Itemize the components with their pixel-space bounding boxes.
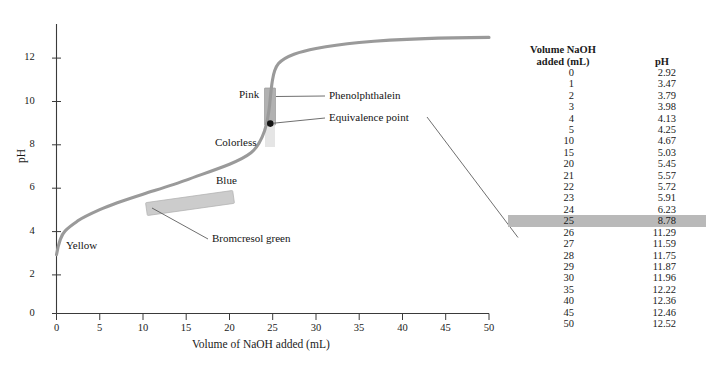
cell-volume: 26 xyxy=(508,227,618,238)
annotation-bromcresol-green: Bromcresol green xyxy=(212,232,291,244)
cell-volume: 28 xyxy=(508,250,618,261)
chart-canvas xyxy=(0,0,500,369)
x-tick-label-25: 25 xyxy=(263,322,282,333)
cell-volume: 40 xyxy=(508,295,618,306)
cell-ph: 11.29 xyxy=(618,227,706,238)
cell-ph: 6.23 xyxy=(618,204,706,215)
x-tick-label-20: 20 xyxy=(220,322,239,333)
x-tick-marks xyxy=(57,314,490,321)
cell-ph: 12.36 xyxy=(618,295,706,306)
cell-ph: 11.59 xyxy=(618,238,706,249)
cell-ph: 12.46 xyxy=(618,307,706,318)
cell-volume: 0 xyxy=(508,67,618,78)
cell-volume: 50 xyxy=(508,318,618,329)
table-row: 33.98 xyxy=(508,101,706,112)
table-row: 2711.59 xyxy=(508,238,706,249)
cell-ph: 5.03 xyxy=(618,147,706,158)
x-axis-title: Volume of NaOH added (mL) xyxy=(192,338,330,350)
x-tick-label-40: 40 xyxy=(393,322,412,333)
column-header-ph: pH xyxy=(618,44,706,67)
cell-ph: 12.52 xyxy=(618,318,706,329)
y-tick-label-4: 4 xyxy=(24,225,40,236)
table-head: Volume NaOH added (mL) pH xyxy=(508,44,706,67)
cell-ph: 3.98 xyxy=(618,101,706,112)
cell-ph: 3.47 xyxy=(618,78,706,89)
cell-volume: 20 xyxy=(508,158,618,169)
cell-ph: 11.87 xyxy=(618,261,706,272)
table-row: 54.25 xyxy=(508,124,706,135)
cell-ph: 2.92 xyxy=(618,67,706,78)
y-tick-label-6: 6 xyxy=(24,181,40,192)
table-row: 5012.52 xyxy=(508,318,706,329)
cell-ph: 4.67 xyxy=(618,135,706,146)
cell-ph: 4.25 xyxy=(618,124,706,135)
annotation-pink: Pink xyxy=(239,88,259,100)
table-row: 3011.96 xyxy=(508,272,706,283)
titration-chart: 0 2 4 6 8 10 12 0 5 10 15 20 25 30 35 40… xyxy=(0,0,500,369)
table-row: 235.91 xyxy=(508,192,706,203)
cell-volume: 23 xyxy=(508,192,618,203)
titration-curve-figure: 0 2 4 6 8 10 12 0 5 10 15 20 25 30 35 40… xyxy=(0,0,706,369)
table-body: 02.9213.4723.7933.9844.1354.25104.67155.… xyxy=(508,67,706,329)
column-header-volume-line2: added (mL) xyxy=(508,56,618,68)
y-tick-label-2: 2 xyxy=(24,268,40,279)
cell-volume: 10 xyxy=(508,135,618,146)
cell-ph: 11.96 xyxy=(618,272,706,283)
table-row: 4512.46 xyxy=(508,307,706,318)
cell-ph: 3.79 xyxy=(618,90,706,101)
y-tick-label-0: 0 xyxy=(24,307,40,318)
table-row: 246.23 xyxy=(508,204,706,215)
x-tick-label-50: 50 xyxy=(480,322,498,333)
cell-ph: 5.45 xyxy=(618,158,706,169)
cell-ph: 12.22 xyxy=(618,284,706,295)
table-row: 155.03 xyxy=(508,147,706,158)
table-row: 2811.75 xyxy=(508,250,706,261)
table-row: 225.72 xyxy=(508,181,706,192)
column-header-volume-line1: Volume NaOH xyxy=(508,44,618,56)
cell-volume: 45 xyxy=(508,307,618,318)
y-axis-title: pH xyxy=(15,149,27,163)
annotation-yellow: Yellow xyxy=(66,239,97,251)
annotation-colorless: Colorless xyxy=(215,136,257,148)
table-row: 3512.22 xyxy=(508,284,706,295)
table-row: 23.79 xyxy=(508,90,706,101)
cell-ph: 5.57 xyxy=(618,170,706,181)
x-tick-label-30: 30 xyxy=(307,322,325,333)
table-row: 104.67 xyxy=(508,135,706,146)
cell-volume: 25 xyxy=(508,215,618,226)
y-tick-label-12: 12 xyxy=(19,51,40,62)
annotation-phenolphthalein: Phenolphthalein xyxy=(329,89,401,101)
x-tick-label-10: 10 xyxy=(134,322,152,333)
cell-volume: 35 xyxy=(508,284,618,295)
column-header-volume: Volume NaOH added (mL) xyxy=(508,44,618,67)
cell-volume: 30 xyxy=(508,272,618,283)
table-header-row: Volume NaOH added (mL) pH xyxy=(508,44,706,67)
cell-volume: 2 xyxy=(508,90,618,101)
annotation-equivalence-point: Equivalence point xyxy=(329,111,409,123)
table-row-highlighted: 258.78 xyxy=(508,215,706,226)
cell-volume: 3 xyxy=(508,101,618,112)
cell-ph: 5.72 xyxy=(618,181,706,192)
cell-ph: 5.91 xyxy=(618,192,706,203)
equivalence-point-marker xyxy=(267,120,274,127)
x-tick-label-45: 45 xyxy=(436,322,455,333)
cell-volume: 24 xyxy=(508,204,618,215)
table-row: 4012.36 xyxy=(508,295,706,306)
equivalence-point-leader-line xyxy=(274,118,326,123)
cell-volume: 27 xyxy=(508,238,618,249)
x-tick-label-15: 15 xyxy=(177,322,195,333)
table-row: 2911.87 xyxy=(508,261,706,272)
table-row: 44.13 xyxy=(508,113,706,124)
x-tick-label-35: 35 xyxy=(350,322,368,333)
table-row: 02.92 xyxy=(508,67,706,78)
cell-volume: 21 xyxy=(508,170,618,181)
titration-data-table: Volume NaOH added (mL) pH 02.9213.4723.7… xyxy=(500,0,706,369)
y-tick-label-8: 8 xyxy=(24,138,40,149)
annotation-blue: Blue xyxy=(216,174,237,186)
table-row: 2611.29 xyxy=(508,227,706,238)
cell-volume: 1 xyxy=(508,78,618,89)
cell-ph: 4.13 xyxy=(618,113,706,124)
cell-volume: 4 xyxy=(508,113,618,124)
cell-ph: 8.78 xyxy=(618,215,706,226)
table-row: 205.45 xyxy=(508,158,706,169)
